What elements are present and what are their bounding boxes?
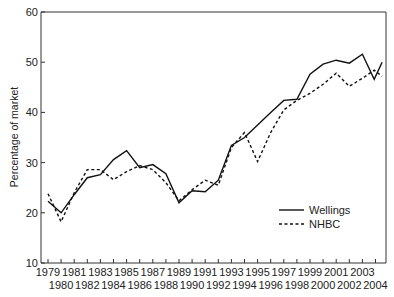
x-tick-label: 1984 [101, 279, 125, 291]
y-tick-label: 50 [26, 56, 38, 68]
x-tick-label: 1997 [272, 266, 296, 278]
x-tick-label: 2004 [363, 279, 387, 291]
legend: Wellings NHBC [279, 204, 351, 230]
x-tick-label: 1989 [167, 266, 191, 278]
x-tick-label: 1986 [127, 279, 151, 291]
x-tick-label: 1996 [258, 279, 282, 291]
y-tick-label: 60 [26, 6, 38, 18]
y-tick-label: 30 [26, 157, 38, 169]
x-tick-label: 1993 [219, 266, 243, 278]
legend-label-wellings: Wellings [309, 204, 351, 216]
x-tick-label: 1988 [154, 279, 178, 291]
x-tick-label: 1983 [88, 266, 112, 278]
series-line-wellings [48, 54, 382, 213]
x-tick-label: 1987 [141, 266, 165, 278]
x-tick-label: 1982 [75, 279, 99, 291]
x-tick-label: 2002 [337, 279, 361, 291]
y-tick-label: 20 [26, 207, 38, 219]
x-tick-label: 1995 [245, 266, 269, 278]
y-tick-label: 40 [26, 106, 38, 118]
series-line-nhbc [48, 70, 382, 222]
y-axis-title: Percentage of market [8, 87, 20, 187]
x-tick-label: 1979 [36, 266, 60, 278]
x-tick-label: 1990 [180, 279, 204, 291]
y-axis-ticks: 102030405060 [26, 6, 45, 269]
x-tick-label: 1994 [232, 279, 256, 291]
x-tick-label: 2000 [311, 279, 335, 291]
x-tick-label: 1998 [285, 279, 309, 291]
chart-canvas: 102030405060 197919811983198519871989199… [0, 0, 394, 297]
x-tick-label: 1999 [298, 266, 322, 278]
x-tick-label: 1992 [206, 279, 230, 291]
legend-label-nhbc: NHBC [309, 218, 340, 230]
x-tick-label: 2001 [324, 266, 348, 278]
x-tick-label: 1981 [62, 266, 86, 278]
series-lines [48, 54, 382, 222]
x-tick-label: 1980 [49, 279, 73, 291]
x-tick-label: 2003 [350, 266, 374, 278]
line-chart: 102030405060 197919811983198519871989199… [0, 0, 394, 297]
x-axis-ticks: 1979198119831985198719891991199319951997… [36, 259, 388, 291]
x-tick-label: 1985 [114, 266, 138, 278]
x-tick-label: 1991 [193, 266, 217, 278]
